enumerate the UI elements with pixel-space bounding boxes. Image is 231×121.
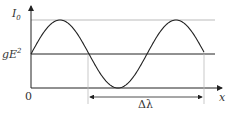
y-axis-label: I0: [12, 8, 21, 22]
interference-diagram: [0, 0, 231, 121]
baseline-label: gE2: [2, 48, 22, 60]
x-axis-label: x: [219, 92, 225, 103]
period-label: Δλ: [138, 99, 153, 110]
origin-label: 0: [25, 91, 32, 102]
